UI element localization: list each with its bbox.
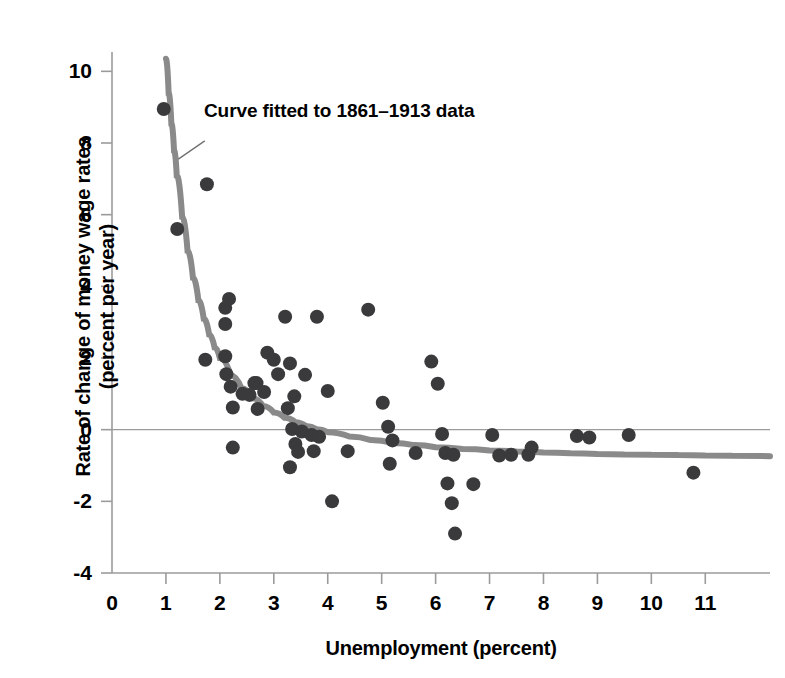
y-tick-label: 8 (20, 131, 92, 155)
data-point (226, 400, 240, 414)
x-tick-label: 7 (484, 591, 496, 615)
data-point (298, 368, 312, 382)
x-tick-label: 0 (106, 591, 118, 615)
data-point (424, 355, 438, 369)
data-point (325, 494, 339, 508)
data-point (504, 448, 518, 462)
data-point (383, 457, 397, 471)
x-tick-label: 4 (322, 591, 334, 615)
x-tick-label: 2 (214, 591, 226, 615)
data-point (466, 477, 480, 491)
y-axis-label-line-1: Rate of change of money wage rates (72, 107, 96, 507)
data-point (218, 349, 232, 363)
fitted-curve-annotation-label: Curve fitted to 1861–1913 data (204, 100, 475, 122)
annotation-leader-line (178, 141, 204, 159)
data-point (310, 310, 324, 324)
data-point (361, 303, 375, 317)
data-point (440, 476, 454, 490)
y-tick-label: 2 (20, 346, 92, 370)
data-point (219, 367, 233, 381)
phillips-curve-figure: Rate of change of money wage rates (perc… (0, 0, 785, 678)
x-tick-label: 5 (376, 591, 388, 615)
x-tick-label: 8 (538, 591, 550, 615)
data-point (525, 441, 539, 455)
y-tick-label: 10 (20, 59, 92, 83)
x-tick-label: 3 (268, 591, 280, 615)
x-axis-tick-marks (166, 573, 705, 584)
data-point (257, 385, 271, 399)
data-point (409, 446, 423, 460)
annotation-leader-line-segment (178, 141, 204, 159)
data-point (251, 402, 265, 416)
data-point (281, 401, 295, 415)
data-point (448, 527, 462, 541)
y-tick-label: -2 (20, 489, 92, 513)
data-point (381, 420, 395, 434)
data-point (385, 433, 399, 447)
data-point (226, 441, 240, 455)
data-point (376, 396, 390, 410)
data-point (321, 384, 335, 398)
data-point (271, 367, 285, 381)
x-tick-label: 1 (160, 591, 172, 615)
x-tick-label: 11 (694, 591, 716, 615)
data-point (431, 377, 445, 391)
y-tick-label: -4 (20, 561, 92, 585)
x-tick-label: 6 (430, 591, 442, 615)
data-point (446, 448, 460, 462)
data-point (312, 430, 326, 444)
x-tick-label: 10 (640, 591, 663, 615)
data-point (485, 428, 499, 442)
data-point (445, 496, 459, 510)
data-point (198, 353, 212, 367)
data-point (341, 444, 355, 458)
y-tick-label: 6 (20, 203, 92, 227)
y-tick-label: 0 (20, 418, 92, 442)
axis-lines (112, 52, 770, 573)
y-axis-label-line-2: (percent per year) (96, 107, 120, 507)
data-point (287, 389, 301, 403)
y-tick-label: 4 (20, 274, 92, 298)
data-point (224, 380, 238, 394)
data-point (686, 466, 700, 480)
data-point (222, 292, 236, 306)
data-point (622, 428, 636, 442)
data-point (278, 310, 292, 324)
data-point-group (157, 102, 701, 541)
data-point (218, 317, 232, 331)
data-point (170, 222, 184, 236)
y-axis-label: Rate of change of money wage rates (perc… (72, 107, 119, 507)
x-axis-label: Unemployment (percent) (112, 637, 770, 660)
data-point (283, 356, 297, 370)
data-point (570, 429, 584, 443)
x-tick-label: 9 (592, 591, 604, 615)
data-point (582, 431, 596, 445)
data-point (307, 444, 321, 458)
data-point (200, 177, 214, 191)
data-point (291, 445, 305, 459)
data-point (157, 102, 171, 116)
data-point (283, 460, 297, 474)
data-point (435, 427, 449, 441)
data-point (267, 353, 281, 367)
